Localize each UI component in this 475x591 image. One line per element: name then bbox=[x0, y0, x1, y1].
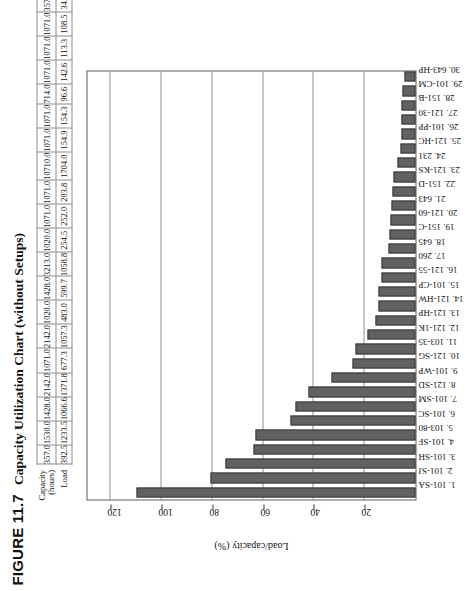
x-axis-tick-label: 12. 121-1K bbox=[418, 322, 459, 332]
x-axis-tick-label: 25. 121-HC bbox=[418, 135, 461, 145]
capacity-cell: 1020.0 bbox=[37, 300, 56, 324]
capacity-cell: 1071.0 bbox=[37, 180, 56, 204]
figure-caption-text: Capacity Utilization Chart (without Setu… bbox=[10, 233, 25, 485]
load-cell: 677.3 bbox=[56, 348, 72, 372]
load-cell: 96.6 bbox=[56, 84, 72, 104]
capacity-cell: 1428.0 bbox=[37, 396, 56, 420]
x-axis-tick-label: 11. 103-35 bbox=[418, 336, 457, 346]
capacity-cell: 1071.0 bbox=[37, 36, 56, 60]
x-axis-tick-label: 16. 121-55 bbox=[418, 264, 457, 274]
capacity-cell: 1071.0 bbox=[37, 128, 56, 152]
x-axis-tick-label: 14. 121-HW bbox=[418, 293, 463, 303]
capacity-cell: 2142.0 bbox=[37, 372, 56, 396]
x-axis-tick-label: 22. 151-D bbox=[418, 178, 455, 188]
chart-bar bbox=[308, 386, 415, 396]
capacity-cell: 10710.0 bbox=[37, 152, 56, 180]
x-axis-tick-label: 30. 643-HP bbox=[418, 64, 460, 74]
x-axis-tick-label: 27. 121-30 bbox=[418, 107, 457, 117]
capacity-cell: 1071.0 bbox=[37, 12, 56, 36]
x-axis-tick-label: 1. 101-SA bbox=[418, 479, 455, 489]
load-cell: 113.3 bbox=[56, 36, 72, 60]
chart-bar bbox=[404, 71, 415, 81]
x-axis-tick-label: 9. 101-WP bbox=[418, 365, 457, 375]
load-cell: 254.5 bbox=[56, 228, 72, 252]
capacity-header-line2: (hours) bbox=[46, 469, 56, 500]
x-axis-tick-label: 23. 121-KS bbox=[418, 164, 460, 174]
chart-bar bbox=[381, 272, 415, 282]
chart-bar bbox=[390, 214, 415, 224]
x-axis-labels: 1. 101-SA2. 101-SJ3. 101-SH4. 101-SF5. 1… bbox=[418, 70, 475, 500]
capacity-cell: 1071.0 bbox=[37, 348, 56, 372]
x-axis-tick-label: 8. 121-SD bbox=[418, 379, 455, 389]
chart-bar bbox=[397, 157, 415, 167]
chart-bar bbox=[253, 444, 415, 454]
x-axis-tick-label: 2. 101-SJ bbox=[418, 465, 452, 475]
load-cell: 483.0 bbox=[56, 300, 72, 324]
chart-bar bbox=[355, 343, 415, 353]
chart-bar bbox=[388, 243, 415, 253]
y-axis-tick-label: 20 bbox=[361, 507, 371, 517]
x-axis-tick-label: 24. 231 bbox=[418, 150, 445, 160]
capacity-row-header: Capacity (hours) bbox=[37, 464, 56, 500]
chart-bar bbox=[392, 186, 415, 196]
load-row-header: Load bbox=[56, 464, 72, 500]
x-axis-tick-label: 3. 101-SH bbox=[418, 451, 455, 461]
gridline bbox=[211, 71, 212, 499]
chart-bar bbox=[400, 143, 415, 153]
table-row-load: Load 392.51233.51066.61371.8677.31057.34… bbox=[56, 0, 72, 500]
x-axis-tick-label: 28. 151-B bbox=[418, 92, 454, 102]
chart-bar bbox=[367, 329, 415, 339]
load-cell: 1371.8 bbox=[56, 372, 72, 396]
gridline bbox=[109, 71, 110, 499]
figure-page: FIGURE 11.7Capacity Utilization Chart (w… bbox=[0, 0, 475, 591]
chart-bar bbox=[401, 100, 415, 110]
chart-bar bbox=[210, 472, 415, 482]
load-cell: 1058.8 bbox=[56, 252, 72, 276]
load-cell: 34.6 bbox=[56, 0, 72, 12]
chart-bar bbox=[225, 458, 415, 468]
x-axis-tick-label: 4. 101-SF bbox=[418, 436, 454, 446]
chart-bar bbox=[391, 200, 415, 210]
chart-bar bbox=[401, 128, 415, 138]
chart-bar bbox=[331, 372, 415, 382]
chart-bar bbox=[402, 85, 415, 95]
capacity-cell: 1428.0 bbox=[37, 276, 56, 300]
load-cell: 252.0 bbox=[56, 204, 72, 228]
chart-bar bbox=[401, 114, 415, 124]
capacity-cell: 1071.0 bbox=[37, 60, 56, 84]
load-cell: 1066.6 bbox=[56, 396, 72, 420]
chart-bar bbox=[378, 286, 415, 296]
chart-bar bbox=[255, 429, 415, 439]
load-cell: 392.5 bbox=[56, 444, 72, 464]
load-cell: 599.7 bbox=[56, 276, 72, 300]
load-cell: 1057.3 bbox=[56, 324, 72, 348]
capacity-cell: 1020.0 bbox=[37, 228, 56, 252]
x-axis-tick-label: 17. 260 bbox=[418, 250, 445, 260]
x-axis-tick-label: 13. 121-HP bbox=[418, 307, 460, 317]
chart-bar bbox=[295, 401, 415, 411]
load-cell: 108.5 bbox=[56, 12, 72, 36]
chart-bar bbox=[290, 415, 415, 425]
x-axis-tick-label: 29. 101-CM bbox=[418, 78, 462, 88]
x-axis-tick-label: 19. 151-C bbox=[418, 221, 454, 231]
figure-caption: FIGURE 11.7Capacity Utilization Chart (w… bbox=[8, 233, 26, 585]
y-axis-tick-label: 60 bbox=[260, 507, 270, 517]
figure-number: FIGURE 11.7 bbox=[8, 494, 25, 585]
capacity-cell: 2142.0 bbox=[37, 324, 56, 348]
capacity-utilization-chart: Load/capacity (%) 20406080100120 1. 101-… bbox=[86, 70, 416, 500]
table-row-capacity: Capacity (hours) 357.01530.01428.02142.0… bbox=[37, 0, 56, 500]
chart-bar bbox=[378, 300, 415, 310]
capacity-cell: 1071.0 bbox=[37, 103, 56, 127]
x-axis-tick-label: 5. 103-80 bbox=[418, 422, 453, 432]
chart-bar bbox=[352, 358, 415, 368]
load-cell: 203.8 bbox=[56, 180, 72, 204]
load-cell: 1704.0 bbox=[56, 152, 72, 180]
y-axis-tick-label: 80 bbox=[209, 507, 219, 517]
x-axis-tick-label: 7. 101-SM bbox=[418, 393, 457, 403]
capacity-cell: 1071.0 bbox=[37, 204, 56, 228]
x-axis-tick-label: 6. 101-SC bbox=[418, 408, 455, 418]
x-axis-tick-label: 20. 121-60 bbox=[418, 207, 457, 217]
load-cell: 142.6 bbox=[56, 60, 72, 84]
chart-bar bbox=[136, 487, 415, 497]
load-cell: 1233.5 bbox=[56, 420, 72, 444]
